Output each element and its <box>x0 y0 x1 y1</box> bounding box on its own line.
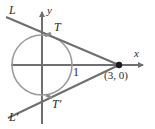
y-axis-label: y <box>47 5 52 16</box>
tangent-line-L-prime-label: L′ <box>9 111 18 123</box>
x-axis-label: x <box>134 48 139 59</box>
external-point-dot <box>116 62 122 68</box>
geometry-figure: L L′ T T′ y x 1 (3, 0) <box>0 0 155 129</box>
tangent-line-L-prime <box>8 65 119 118</box>
tangent-point-T-label: T <box>54 21 61 33</box>
tangent-point-T-prime-label: T′ <box>52 98 61 110</box>
radius-label: 1 <box>73 66 79 78</box>
tangent-line-L-label: L <box>9 4 16 16</box>
external-point-label: (3, 0) <box>104 70 128 81</box>
